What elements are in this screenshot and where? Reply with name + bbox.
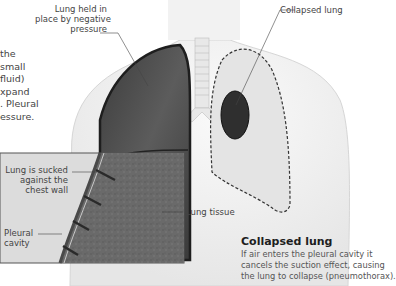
label-line: cavity [4, 238, 33, 248]
intro-line: small [0, 61, 39, 74]
caption-line: If air enters the pleural cavity it [241, 249, 396, 260]
label-pleural-cavity: Pleural cavity [4, 228, 33, 248]
caption-title: Collapsed lung [241, 235, 333, 248]
intro-line: essure. [0, 111, 39, 124]
intro-fragment: the small fluid) xpand . Pleural essure. [0, 48, 39, 123]
collapsed-lung [221, 91, 249, 139]
label-line: chest wall [2, 185, 68, 195]
label-lung-sucked: Lung is sucked against the chest wall [2, 165, 68, 195]
label-lung-tissue: Lung tissue [186, 207, 235, 217]
label-line: Lung held in [35, 4, 107, 14]
intro-line: . Pleural [0, 98, 39, 111]
label-line: Pleural [4, 228, 33, 238]
label-held-lung: Lung held in place by negative pressure [35, 4, 107, 34]
intro-line: the [0, 48, 39, 61]
label-line: place by negative [35, 14, 107, 24]
label-line: against the [2, 175, 68, 185]
caption-line: the lung to collapse (pneumothorax). [241, 271, 396, 282]
label-collapsed-lung: Collapsed lung [280, 5, 343, 15]
label-line: pressure [35, 24, 107, 34]
intro-line: xpand [0, 86, 39, 99]
label-line: Lung is sucked [2, 165, 68, 175]
caption-body: If air enters the pleural cavity it canc… [241, 249, 396, 282]
intro-line: fluid) [0, 73, 39, 86]
caption-line: cancels the suction effect, causing [241, 260, 396, 271]
